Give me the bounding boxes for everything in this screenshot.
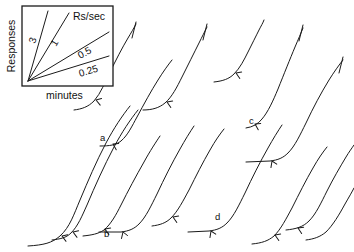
point-label-c: c [249,115,254,126]
point-labels-layer: abcd [100,115,254,239]
record-8 [152,129,224,226]
cumulative-response-curve [188,125,282,232]
reinforcement-pip [210,231,216,238]
point-label-b: b [104,228,109,239]
cumulative-response-curve [286,145,354,230]
cumulative-response-curve [28,106,130,246]
point-label-a: a [100,132,106,143]
cumulative-response-curve [52,110,138,240]
point-label-d: d [215,211,220,222]
record-11-upper [246,25,303,130]
pen-reset-tick [299,25,303,41]
y-axis-label: Responses [5,20,17,73]
cumulative-response-curve [99,126,194,232]
reinforcement-pip [122,232,128,239]
record-6 [99,126,194,239]
record-9 [188,125,282,238]
rate-reference-inset: 310.50.25 Rs/sec [22,6,113,86]
record-1 [28,106,130,246]
cumulative-response-curve [246,28,303,128]
cumulative-record-figure: abcd 310.50.25 Rs/sec Responses minutes [0,0,354,252]
x-axis-label: minutes [46,89,83,101]
record-5 [83,136,160,236]
record-12 [246,57,343,168]
cumulative-response-curve [143,27,207,110]
reinforcement-pip [274,232,283,241]
cumulative-response-curve [306,188,354,240]
figure-canvas: abcd 310.50.25 Rs/sec Responses minutes [0,0,354,252]
cumulative-response-curve [246,60,343,162]
record-7-upper [143,24,207,110]
record-15-tail [306,188,354,240]
cumulative-response-curve [83,136,160,236]
reinforcement-pip [271,161,277,168]
inset-unit-label: Rs/sec [73,10,105,22]
record-2 [52,110,138,240]
record-10-upper [214,20,264,82]
cumulative-response-curve [152,129,224,226]
pen-reset-tick [203,24,207,40]
record-14 [286,145,354,234]
